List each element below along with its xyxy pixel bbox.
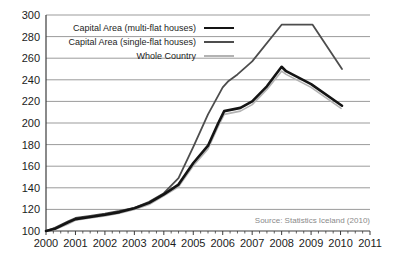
x-tick-label: 2008 — [269, 237, 293, 249]
x-tick-label: 2011 — [358, 237, 382, 249]
legend-item: Capital Area (multi-flat houses) — [50, 21, 234, 35]
y-tick-label: 280 — [22, 31, 40, 43]
y-tick-label: 180 — [22, 139, 40, 151]
x-tick-label: 2003 — [122, 237, 146, 249]
series-line — [46, 71, 341, 231]
legend-label: Whole Country — [50, 51, 196, 61]
legend-label: Capital Area (single-flat houses) — [50, 37, 196, 47]
y-tick-label: 200 — [22, 117, 40, 129]
series-line — [46, 67, 342, 231]
x-tick-label: 2000 — [34, 237, 58, 249]
price-index-line-chart: 2000200120022003200420052006200720082009… — [0, 0, 396, 272]
x-tick-label: 2002 — [93, 237, 117, 249]
source-note: Source: Statistics Iceland (2010) — [255, 216, 370, 225]
x-axis-tick-labels: 2000200120022003200420052006200720082009… — [34, 237, 382, 249]
y-tick-label: 240 — [22, 74, 40, 86]
y-axis-tick-labels: 100120140160180200220240260280300 — [22, 9, 40, 237]
y-tick-label: 140 — [22, 182, 40, 194]
x-tick-label: 2009 — [299, 237, 323, 249]
legend-line-swatch — [204, 27, 234, 30]
x-tick-label: 2004 — [152, 237, 176, 249]
x-tick-label: 2005 — [181, 237, 205, 249]
legend: Capital Area (multi-flat houses)Capital … — [50, 21, 234, 63]
y-tick-label: 100 — [22, 225, 40, 237]
x-tick-label: 2010 — [328, 237, 352, 249]
legend-item: Capital Area (single-flat houses) — [50, 35, 234, 49]
y-tick-label: 120 — [22, 203, 40, 215]
y-tick-label: 260 — [22, 52, 40, 64]
x-tick-label: 2006 — [210, 237, 234, 249]
legend-line-swatch — [204, 41, 234, 43]
legend-label: Capital Area (multi-flat houses) — [50, 23, 196, 33]
legend-item: Whole Country — [50, 49, 234, 63]
x-tick-label: 2001 — [63, 237, 87, 249]
y-tick-label: 160 — [22, 160, 40, 172]
x-tick-label: 2007 — [240, 237, 264, 249]
legend-line-swatch — [204, 55, 234, 57]
y-tick-label: 300 — [22, 9, 40, 21]
y-tick-label: 220 — [22, 95, 40, 107]
